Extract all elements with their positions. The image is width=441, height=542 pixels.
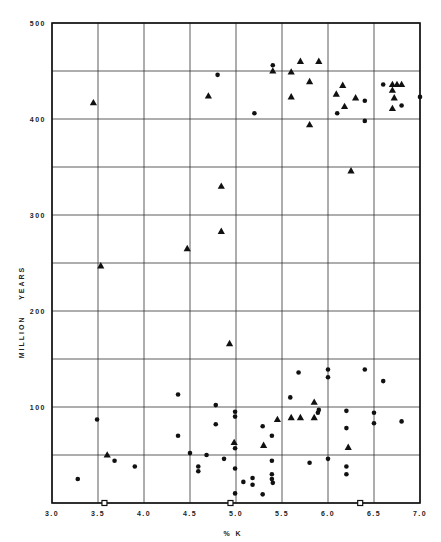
dot-marker	[252, 111, 257, 116]
x-axis-label: % K	[223, 530, 242, 537]
dot-marker	[372, 410, 377, 415]
triangle-marker	[352, 94, 359, 100]
y-tick-label: 500	[30, 20, 46, 27]
data-points	[75, 58, 422, 506]
triangle-marker	[347, 167, 354, 173]
triangle-marker	[311, 398, 318, 404]
dot-marker	[204, 453, 209, 458]
dot-marker	[344, 464, 349, 469]
y-tick-label: 400	[30, 116, 46, 123]
triangle-marker	[341, 103, 348, 109]
triangle-marker	[306, 78, 313, 84]
dot-marker	[270, 477, 275, 482]
dot-marker	[260, 424, 265, 429]
dot-marker	[363, 367, 368, 372]
dot-marker	[288, 395, 293, 400]
triangle-marker	[104, 451, 111, 457]
dot-marker	[335, 111, 340, 116]
dot-marker	[399, 103, 404, 108]
dot-marker	[399, 419, 404, 424]
dot-marker	[233, 466, 238, 471]
scatter-chart: 100200300400500 3.03.54.04.55.05.56.06.5…	[0, 0, 441, 542]
dot-marker	[363, 119, 368, 124]
dot-marker	[381, 82, 386, 87]
triangle-marker	[269, 67, 276, 73]
dot-marker	[233, 414, 238, 419]
triangle-marker	[339, 82, 346, 88]
dot-marker	[326, 367, 331, 372]
dot-marker	[196, 469, 201, 474]
x-tick-label: 5.0	[229, 510, 243, 517]
triangle-marker	[391, 94, 398, 100]
y-axis-ticks: 100200300400500	[30, 20, 46, 411]
triangle-marker	[218, 182, 225, 188]
triangle-marker	[398, 81, 405, 87]
dot-marker	[250, 482, 255, 487]
triangle-marker	[345, 444, 352, 450]
dot-marker	[326, 457, 331, 462]
dot-marker	[270, 472, 275, 477]
triangle-marker	[315, 58, 322, 64]
triangle-marker	[288, 414, 295, 420]
open-square-marker	[358, 501, 363, 506]
dot-marker	[307, 460, 312, 465]
dot-marker	[241, 480, 246, 485]
dot-marker	[270, 434, 275, 439]
y-axis-label: MILLION YEARS	[18, 266, 25, 359]
dot-marker	[196, 464, 201, 469]
x-tick-label: 3.0	[45, 510, 59, 517]
triangle-marker	[297, 58, 304, 64]
triangle-marker	[389, 105, 396, 111]
dot-marker	[233, 410, 238, 415]
dot-marker	[418, 95, 423, 100]
dot-marker	[260, 492, 265, 497]
triangle-marker	[260, 442, 267, 448]
triangle-marker	[297, 414, 304, 420]
dot-marker	[326, 375, 331, 380]
y-tick-label: 200	[30, 308, 46, 315]
triangle-marker	[333, 90, 340, 96]
dot-marker	[271, 481, 276, 486]
dot-marker	[188, 451, 193, 456]
triangle-marker	[218, 228, 225, 234]
dot-marker	[112, 458, 117, 463]
dot-marker	[222, 457, 227, 462]
dot-marker	[250, 476, 255, 481]
dot-marker	[176, 392, 181, 397]
y-tick-label: 300	[30, 212, 46, 219]
triangle-marker	[90, 99, 97, 105]
dot-marker	[344, 426, 349, 431]
open-square-marker	[228, 501, 233, 506]
x-tick-label: 3.5	[91, 510, 105, 517]
dot-marker	[344, 409, 349, 414]
dot-marker	[176, 434, 181, 439]
dot-marker	[213, 422, 218, 427]
dot-marker	[215, 73, 220, 78]
dot-marker	[344, 472, 349, 477]
x-tick-label: 6.5	[367, 510, 381, 517]
triangle-marker	[205, 92, 212, 98]
triangle-marker	[231, 439, 238, 445]
dot-marker	[271, 63, 276, 68]
dot-marker	[75, 477, 80, 482]
x-tick-label: 4.0	[137, 510, 151, 517]
x-axis-ticks: 3.03.54.04.55.05.56.06.57.0	[45, 510, 427, 517]
dot-marker	[213, 403, 218, 408]
grid-lines	[52, 23, 420, 503]
dot-marker	[316, 410, 321, 415]
triangle-marker	[288, 93, 295, 99]
x-tick-label: 4.5	[183, 510, 197, 517]
triangle-marker	[274, 416, 281, 422]
dot-marker	[270, 458, 275, 463]
triangle-marker	[226, 340, 233, 346]
dot-marker	[233, 446, 238, 451]
x-tick-label: 6.0	[321, 510, 335, 517]
dot-marker	[296, 370, 301, 375]
dot-marker	[381, 379, 386, 384]
dot-marker	[133, 464, 138, 469]
dot-marker	[363, 98, 368, 103]
open-square-marker	[102, 501, 107, 506]
dot-marker	[372, 421, 377, 426]
x-tick-label: 7.0	[413, 510, 427, 517]
y-tick-label: 100	[30, 404, 46, 411]
